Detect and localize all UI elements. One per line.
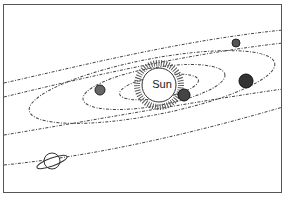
planet-inner-left: [95, 85, 105, 95]
orbit-diagram: [4, 5, 282, 193]
planet-top-right: [232, 39, 240, 47]
orbit-6: [4, 30, 282, 83]
ringed-planet: [36, 153, 69, 171]
sun-label: Sun: [147, 78, 177, 90]
diagram-frame: Sun: [3, 4, 282, 193]
planet-right-large: [239, 74, 253, 88]
planet-near-sun: [178, 89, 190, 101]
